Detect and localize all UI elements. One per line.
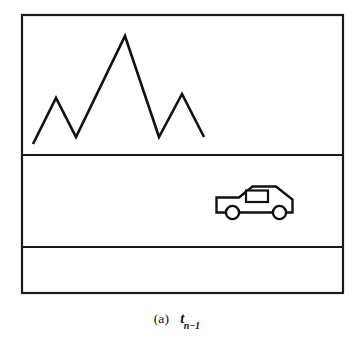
caption-index-label: (a): [154, 311, 170, 326]
car-front-wheel: [226, 206, 239, 219]
scene-illustration: [0, 0, 354, 348]
car-rear-wheel: [273, 206, 286, 219]
car-window: [246, 191, 268, 203]
figure-caption: (a)tn−1: [0, 311, 354, 329]
figure-container: (a)tn−1: [0, 0, 354, 348]
caption-subscript: n−1: [184, 320, 200, 331]
